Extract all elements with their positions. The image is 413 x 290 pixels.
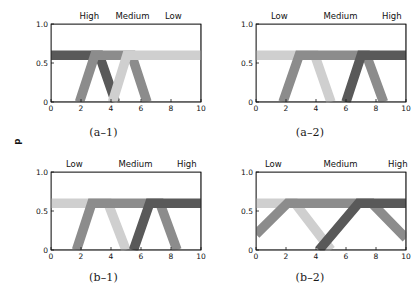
- x-tick-label: 8: [169, 104, 174, 113]
- y-tick-label: 0: [43, 246, 48, 255]
- x-tick-label: 2: [284, 104, 289, 113]
- plot-a-2: 024681000.51.0LowMediumHigh: [207, 0, 413, 145]
- panel-b-1: Degree of Membership 024681000.51.0LowMe…: [0, 145, 207, 290]
- x-tick-label: 4: [314, 252, 319, 261]
- plot-b-1: 024681000.51.0LowMediumHigh: [0, 145, 207, 290]
- panel-caption-a-1: (a–1): [0, 126, 207, 139]
- term-label-medium: Medium: [119, 159, 153, 169]
- x-tick-label: 8: [169, 252, 174, 261]
- x-tick-label: 4: [109, 104, 114, 113]
- panel-b-2: 024681000.51.0LowMediumHigh (b–2): [207, 145, 413, 290]
- x-tick-label: 6: [344, 104, 349, 113]
- x-tick-label: 10: [196, 104, 206, 113]
- term-label-medium: Medium: [116, 11, 150, 21]
- x-tick-label: 8: [374, 104, 379, 113]
- figure-grid: Degree of Membership 024681000.51.0HighM…: [0, 0, 413, 290]
- y-tick-label: 0.5: [241, 59, 253, 68]
- x-tick-label: 2: [79, 252, 84, 261]
- panel-a-2: 024681000.51.0LowMediumHigh (a–2): [207, 0, 413, 145]
- x-tick-label: 10: [401, 104, 411, 113]
- x-tick-label: 10: [401, 252, 411, 261]
- x-tick-label: 4: [109, 252, 114, 261]
- y-tick-label: 0.5: [36, 59, 48, 68]
- y-tick-label: 0.5: [241, 207, 253, 216]
- x-tick-label: 0: [49, 104, 54, 113]
- x-tick-label: 0: [254, 104, 259, 113]
- y-tick-label: 0: [248, 246, 253, 255]
- term-labels: HighMediumLow: [80, 11, 182, 21]
- term-label-low: Low: [66, 159, 83, 169]
- y-tick-label: 0.5: [36, 207, 48, 216]
- term-label-high: High: [382, 11, 402, 21]
- x-tick-label: 6: [139, 252, 144, 261]
- panel-caption-b-1: (b–1): [0, 271, 207, 284]
- panel-caption-b-2: (b–2): [207, 271, 413, 284]
- term-label-high: High: [388, 159, 408, 169]
- x-tick-label: 2: [284, 252, 289, 261]
- x-tick-label: 2: [79, 104, 84, 113]
- y-tick-label: 0: [248, 98, 253, 107]
- panel-caption-a-2: (a–2): [207, 126, 413, 139]
- panel-a-1: Degree of Membership 024681000.51.0HighM…: [0, 0, 207, 145]
- x-tick-label: 6: [344, 252, 349, 261]
- term-label-high: High: [177, 159, 197, 169]
- y-tick-label: 1.0: [241, 168, 253, 177]
- x-tick-label: 0: [49, 252, 54, 261]
- x-tick-label: 0: [254, 252, 259, 261]
- term-label-medium: Medium: [324, 11, 358, 21]
- plot-a-1: 024681000.51.0HighMediumLow: [0, 0, 207, 145]
- y-tick-label: 1.0: [36, 168, 48, 177]
- x-tick-label: 6: [139, 104, 144, 113]
- y-tick-label: 1.0: [241, 20, 253, 29]
- x-tick-label: 4: [314, 104, 319, 113]
- x-tick-label: 8: [374, 252, 379, 261]
- x-tick-label: 10: [196, 252, 206, 261]
- y-tick-label: 0: [43, 98, 48, 107]
- term-label-low: Low: [271, 11, 288, 21]
- term-label-low: Low: [165, 11, 182, 21]
- plot-b-2: 024681000.51.0LowMediumHigh: [207, 145, 413, 290]
- y-tick-label: 1.0: [36, 20, 48, 29]
- term-label-high: High: [80, 11, 100, 21]
- term-label-medium: Medium: [324, 159, 358, 169]
- term-label-low: Low: [265, 159, 282, 169]
